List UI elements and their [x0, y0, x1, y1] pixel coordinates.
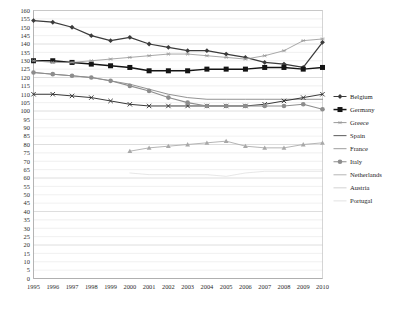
legend-label-austria: Austria — [350, 184, 369, 191]
data-point — [301, 39, 305, 42]
data-point — [128, 84, 133, 89]
x-tick-label-1999: 1999 — [104, 283, 117, 290]
y-tick-label-130: 130 — [20, 57, 30, 64]
x-tick-label-2009: 2009 — [297, 283, 310, 290]
series-germany — [31, 58, 325, 73]
legend-label-spain: Spain — [350, 132, 366, 139]
x-tick-label-2000: 2000 — [123, 283, 136, 290]
x-axis: 1995199619971998199920002001200220032004… — [27, 283, 329, 290]
y-tick-label-35: 35 — [24, 216, 30, 223]
y-tick-label-105: 105 — [20, 99, 30, 106]
y-tick-label-40: 40 — [24, 208, 30, 215]
y-tick-label-75: 75 — [24, 149, 30, 156]
data-point — [108, 63, 113, 68]
series-line-greece — [34, 39, 323, 62]
x-tick-label-2010: 2010 — [316, 283, 329, 290]
data-point — [320, 65, 325, 70]
x-tick-label-1996: 1996 — [46, 283, 59, 290]
chart-screenshot: 0510152025303540455055606570758085909510… — [0, 0, 411, 318]
data-point — [166, 68, 171, 73]
data-point — [147, 89, 152, 94]
data-point — [205, 54, 209, 57]
data-point — [338, 107, 343, 112]
y-tick-label-45: 45 — [24, 199, 30, 206]
y-tick-label-15: 15 — [24, 250, 30, 257]
x-tick-label-2001: 2001 — [143, 283, 156, 290]
y-tick-label-125: 125 — [20, 65, 30, 72]
data-point — [262, 104, 267, 109]
data-point — [301, 102, 306, 107]
data-point — [89, 62, 94, 67]
series-greece — [31, 37, 324, 64]
y-tick-label-10: 10 — [24, 258, 30, 265]
data-point — [281, 65, 286, 70]
y-tick-label-50: 50 — [24, 191, 30, 198]
data-point — [166, 53, 170, 56]
y-tick-label-135: 135 — [20, 49, 30, 56]
data-point — [320, 107, 325, 112]
data-point — [50, 72, 55, 77]
data-point — [166, 45, 171, 50]
data-point — [108, 58, 112, 61]
data-point — [70, 25, 75, 30]
data-point — [70, 74, 75, 79]
legend-label-germany: Germany — [350, 106, 375, 113]
x-tick-label-2003: 2003 — [181, 283, 194, 290]
data-point — [263, 54, 267, 57]
data-point — [147, 68, 152, 73]
y-tick-label-90: 90 — [24, 124, 30, 131]
x-tick-label-2005: 2005 — [220, 283, 233, 290]
legend-label-france: France — [350, 145, 368, 152]
y-tick-label-30: 30 — [24, 225, 30, 232]
y-tick-label-85: 85 — [24, 132, 30, 139]
data-point — [205, 104, 210, 109]
y-tick-label-65: 65 — [24, 166, 30, 173]
y-tick-label-140: 140 — [20, 40, 30, 47]
x-tick-label-2006: 2006 — [239, 283, 252, 290]
data-point — [128, 56, 132, 59]
data-point — [204, 67, 209, 72]
y-tick-label-5: 5 — [27, 266, 30, 273]
data-point — [282, 104, 287, 109]
legend-label-portugal: Portugal — [350, 197, 373, 204]
data-point — [243, 67, 248, 72]
y-tick-label-55: 55 — [24, 183, 30, 190]
x-tick-label-1997: 1997 — [66, 283, 80, 290]
x-tick-label-2002: 2002 — [162, 283, 175, 290]
y-tick-label-110: 110 — [21, 91, 30, 98]
y-tick-label-100: 100 — [20, 107, 30, 114]
series-italy — [31, 70, 325, 111]
y-tick-label-120: 120 — [20, 74, 30, 81]
data-point — [301, 67, 306, 72]
y-tick-label-25: 25 — [24, 233, 30, 240]
legend-label-netherlands: Netherlands — [350, 171, 382, 178]
data-point — [338, 159, 343, 164]
series-austria — [130, 171, 323, 176]
y-tick-label-60: 60 — [24, 174, 30, 181]
data-point — [282, 49, 286, 52]
series-line-italy — [34, 72, 323, 109]
data-point — [108, 38, 113, 43]
y-tick-label-145: 145 — [20, 32, 30, 39]
figure-caption — [0, 300, 411, 318]
y-tick-label-160: 160 — [20, 7, 30, 14]
data-point — [224, 104, 229, 109]
line-chart: 0510152025303540455055606570758085909510… — [0, 0, 411, 318]
y-tick-label-155: 155 — [20, 15, 30, 22]
x-tick-label-2007: 2007 — [258, 283, 272, 290]
data-point — [108, 79, 113, 84]
y-tick-label-80: 80 — [24, 141, 30, 148]
data-point — [262, 65, 267, 70]
data-point — [89, 33, 94, 38]
legend-label-belgium: Belgium — [350, 93, 374, 100]
y-tick-label-95: 95 — [24, 116, 30, 123]
legend: BelgiumGermanyGreeceSpainFranceItalyNeth… — [334, 93, 383, 204]
y-tick-label-0: 0 — [27, 275, 30, 282]
data-point — [127, 65, 132, 70]
data-point — [89, 75, 94, 80]
series-line-austria — [130, 171, 323, 176]
data-point — [166, 95, 171, 100]
x-tick-label-1995: 1995 — [27, 283, 40, 290]
legend-label-italy: Italy — [350, 158, 363, 165]
data-point — [185, 100, 190, 105]
